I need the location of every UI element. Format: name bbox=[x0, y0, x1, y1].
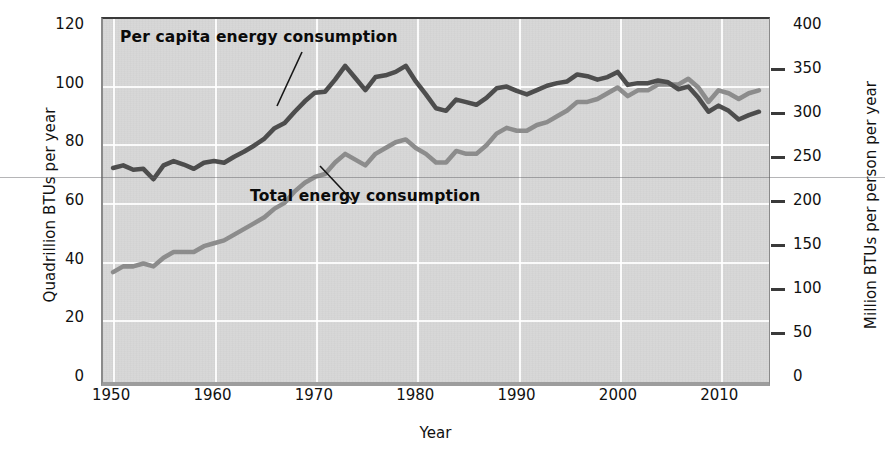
x-tick-1960: 1960 bbox=[178, 386, 248, 404]
left-tick-40: 40 bbox=[30, 250, 84, 268]
right-tick-mark-300 bbox=[771, 112, 785, 115]
x-tick-1990: 1990 bbox=[482, 386, 552, 404]
x-tick-1980: 1980 bbox=[380, 386, 450, 404]
right-tick-350: 350 bbox=[793, 59, 847, 77]
right-tick-150: 150 bbox=[793, 235, 847, 253]
page-scan-rule bbox=[0, 177, 885, 178]
right-tick-mark-350 bbox=[771, 68, 785, 71]
right-tick-200: 200 bbox=[793, 191, 847, 209]
x-tick-2000: 2000 bbox=[583, 386, 653, 404]
right-tick-mark-50 bbox=[771, 332, 785, 335]
right-tick-400: 400 bbox=[793, 15, 847, 33]
x-tick-2010: 2010 bbox=[684, 386, 754, 404]
right-tick-50: 50 bbox=[793, 323, 847, 341]
annotation-per-capita: Per capita energy consumption bbox=[120, 28, 398, 46]
left-tick-20: 20 bbox=[30, 308, 84, 326]
right-tick-300: 300 bbox=[793, 103, 847, 121]
left-tick-0: 0 bbox=[30, 367, 84, 385]
right-tick-mark-250 bbox=[771, 156, 785, 159]
left-tick-80: 80 bbox=[30, 132, 84, 150]
right-tick-mark-200 bbox=[771, 200, 785, 203]
annotation-total: Total energy consumption bbox=[250, 187, 480, 205]
energy-consumption-chart: Quadrillion BTUs per year 12010080604020… bbox=[0, 0, 885, 458]
right-tick-100: 100 bbox=[793, 279, 847, 297]
right-tick-mark-100 bbox=[771, 288, 785, 291]
x-tick-1950: 1950 bbox=[76, 386, 146, 404]
left-tick-100: 100 bbox=[30, 74, 84, 92]
right-tick-mark-150 bbox=[771, 244, 785, 247]
right-axis-title: Million BTUs per person per year bbox=[862, 40, 880, 370]
right-tick-0: 0 bbox=[793, 367, 847, 385]
x-axis-ticks: 1950196019701980199020002010 bbox=[0, 386, 885, 416]
right-tick-250: 250 bbox=[793, 147, 847, 165]
x-tick-1970: 1970 bbox=[279, 386, 349, 404]
x-axis-title: Year bbox=[101, 424, 770, 442]
left-tick-60: 60 bbox=[30, 191, 84, 209]
left-tick-120: 120 bbox=[30, 15, 84, 33]
